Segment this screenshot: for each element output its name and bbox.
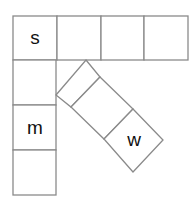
cell-top-2 [57, 16, 101, 60]
cell-top-3 [101, 16, 144, 60]
label-m: m [27, 117, 43, 138]
label-s: s [30, 27, 40, 48]
label-w: w [126, 129, 141, 150]
diagonal-strip [56, 60, 163, 172]
net-diagram: s m w [0, 0, 195, 210]
cell-left-4 [13, 150, 56, 195]
cell-left-2 [13, 60, 56, 105]
cell-top-4 [144, 16, 188, 60]
